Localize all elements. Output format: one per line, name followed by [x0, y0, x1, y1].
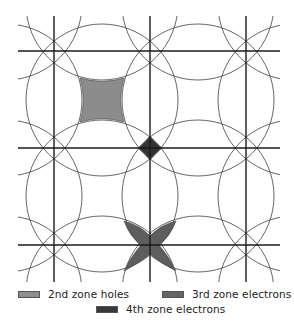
- fermi-circle: [0, 216, 82, 290]
- fermi-circle: [218, 216, 294, 290]
- fermi-circle: [218, 24, 294, 176]
- swatch-2nd-zone-holes: [18, 291, 40, 298]
- fermi-circle: [0, 0, 82, 80]
- 2nd-zone-holes-region: [80, 78, 124, 122]
- legend-item-4th-zone-electrons: 4th zone electrons: [96, 303, 225, 315]
- legend-label: 4th zone electrons: [126, 303, 225, 315]
- legend-label: 3rd zone electrons: [192, 288, 291, 300]
- swatch-3rd-zone-electrons: [162, 291, 184, 298]
- legend-item-3rd-zone-electrons: 3rd zone electrons: [162, 288, 291, 300]
- fermi-circle: [122, 0, 274, 80]
- legend-label: 2nd zone holes: [48, 288, 129, 300]
- fermi-circle: [26, 0, 178, 80]
- zone-regions: [80, 78, 176, 271]
- swatch-4th-zone-electrons: [96, 306, 118, 313]
- fermi-circle: [0, 120, 82, 272]
- fermi-circle: [218, 0, 294, 80]
- fermi-circle: [218, 120, 294, 272]
- legend-item-2nd-zone-holes: 2nd zone holes: [18, 288, 129, 300]
- brillouin-zone-diagram: [0, 0, 294, 290]
- fermi-circle: [0, 24, 82, 176]
